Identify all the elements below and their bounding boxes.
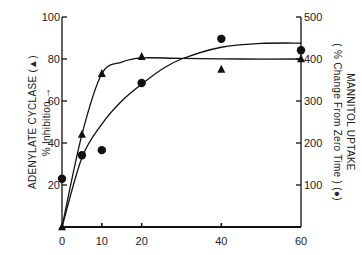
left-axis-title-line2: % Inhibition → [41, 88, 52, 157]
right-tick-label: 100 [304, 179, 322, 191]
axes [62, 17, 301, 227]
right-axis-title-line1: MANNITOL UPTAKE [345, 73, 356, 171]
triangle-fit-curve [62, 58, 301, 227]
data-points [58, 35, 305, 231]
x-tick-label: 0 [59, 235, 65, 247]
x-tick-label: 60 [295, 235, 307, 247]
right-tick-label: 500 [304, 11, 322, 23]
chart: 20406080100 100200300400500 010204060 AD… [0, 0, 362, 255]
left-axis-subtitle: % Inhibition → [41, 88, 52, 157]
right-tick-label: 400 [304, 53, 322, 65]
left-tick-label: 80 [48, 53, 60, 65]
left-tick-label: 20 [48, 179, 60, 191]
circle-marker [217, 35, 225, 43]
x-tick-label: 20 [136, 235, 148, 247]
right-axis-title-line2: ( % Change From Zero Time ) (●) [332, 43, 343, 201]
triangle-marker [217, 65, 225, 73]
circle-marker [297, 46, 305, 54]
circle-marker [58, 175, 66, 183]
right-axis-title: MANNITOL UPTAKE [345, 73, 356, 171]
left-axis-title-line1: ADENYLATE CYCLASE (▲) [27, 55, 38, 189]
circle-fit-curve [62, 43, 301, 227]
right-tick-label: 300 [304, 95, 322, 107]
left-axis-title: ADENYLATE CYCLASE (▲) [27, 55, 38, 189]
left-tick-label: 100 [42, 11, 60, 23]
triangle-marker [78, 130, 86, 138]
triangle-marker [138, 52, 146, 60]
circle-marker [78, 151, 86, 159]
x-tick-label: 10 [96, 235, 108, 247]
right-axis-subtitle: ( % Change From Zero Time ) (●) [332, 43, 343, 201]
circle-marker [98, 146, 106, 154]
x-tick-label: 40 [215, 235, 227, 247]
fit-curves [62, 43, 301, 227]
right-y-ticks: 100200300400500 [296, 11, 322, 191]
circle-marker [137, 79, 145, 87]
right-tick-label: 200 [304, 137, 322, 149]
